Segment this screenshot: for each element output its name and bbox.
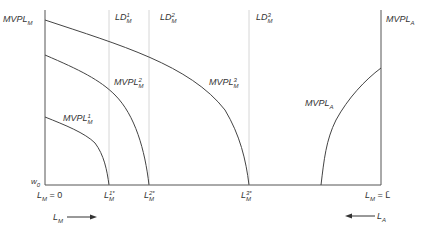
mvpl-a-label: MVPLA xyxy=(305,99,334,110)
l1-star-label: L1*M xyxy=(104,190,115,202)
origin-right-label: LM = L̄ xyxy=(365,191,390,202)
l3-star-label: L3*M xyxy=(241,190,252,202)
la-arrow-head xyxy=(345,214,352,219)
right-axis-label: MVPLA xyxy=(386,15,415,26)
ld3-label: LD3M xyxy=(256,12,273,24)
mvpl-m1-label: MVPL1M xyxy=(63,113,93,125)
lm-direction-label: LM xyxy=(53,213,63,224)
mvpl-m2-label: MVPL2M xyxy=(114,77,144,89)
ld1-label: LD1M xyxy=(115,12,132,24)
mvpl-m2-curve xyxy=(45,55,149,185)
ld2-label: LD2M xyxy=(160,12,177,24)
l2-star-label: L2*M xyxy=(144,190,155,202)
wage-label: w0 xyxy=(31,178,40,188)
left-axis-label: MVPLM xyxy=(3,15,33,26)
mvpl-m1-curve xyxy=(45,117,109,185)
mvpl-a-curve xyxy=(321,68,381,185)
mvpl-m3-label: MVPL3M xyxy=(209,77,239,89)
lm-arrow-head xyxy=(90,215,97,220)
la-direction-label: LA xyxy=(377,212,386,223)
mvpl-m3-curve xyxy=(45,20,249,185)
origin-left-label: LM = 0 xyxy=(37,191,62,202)
